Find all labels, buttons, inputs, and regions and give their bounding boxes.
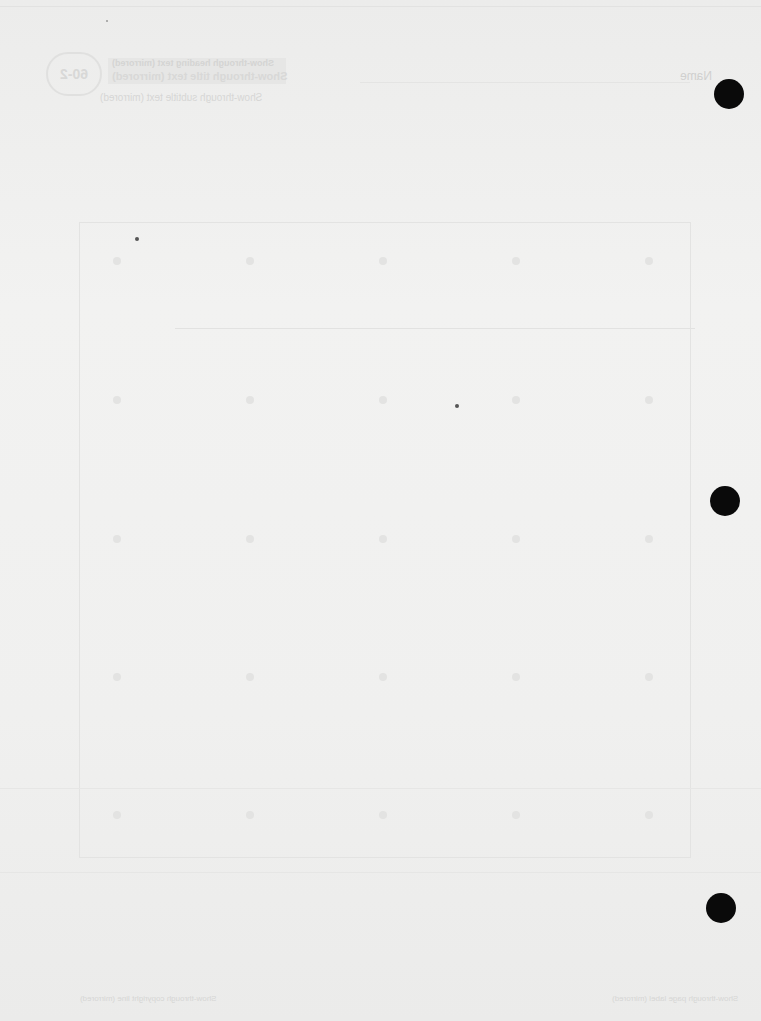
grid-dot <box>113 257 121 265</box>
title-line-1: Show-through heading text (mirrored) <box>112 58 274 68</box>
grid-dot <box>113 535 121 543</box>
binder-hole-bottom <box>706 893 736 923</box>
grid-dot <box>113 673 121 681</box>
grid-dot <box>645 535 653 543</box>
grid-dot <box>512 535 520 543</box>
binder-hole-middle <box>710 486 740 516</box>
subtitle: Show-through subtitle text (mirrored) <box>100 92 262 103</box>
footer-copyright: Show-through copyright line (mirrored) <box>80 994 217 1003</box>
grid-dot <box>512 396 520 404</box>
grid-dot <box>113 811 121 819</box>
grid-dot <box>246 396 254 404</box>
grid-dot <box>246 257 254 265</box>
grid-dot <box>645 811 653 819</box>
grid-dot <box>379 811 387 819</box>
name-label: Name <box>680 69 712 83</box>
grid-dot <box>379 396 387 404</box>
title-line-2: Show-through title text (mirrored) <box>112 70 287 82</box>
binder-hole-top <box>714 79 744 109</box>
grid-dot <box>645 396 653 404</box>
grid-dot <box>645 673 653 681</box>
grid-dot <box>512 673 520 681</box>
grid-dot <box>645 257 653 265</box>
grid-dot <box>246 535 254 543</box>
scan-speck <box>135 237 139 241</box>
grid-dot <box>246 811 254 819</box>
scan-speck <box>455 404 459 408</box>
grid-dot <box>512 811 520 819</box>
grid-dot <box>113 396 121 404</box>
scan-speck <box>106 20 108 22</box>
inner-rule <box>175 328 695 329</box>
lesson-badge: 60-2 <box>46 52 102 96</box>
grid-dot <box>512 257 520 265</box>
scan-band <box>0 872 761 873</box>
grid-dot <box>379 535 387 543</box>
scan-band <box>0 788 761 789</box>
grid-dot <box>379 673 387 681</box>
name-line <box>360 82 690 83</box>
top-edge-line <box>0 6 761 7</box>
footer-page-label: Show-through page label (mirrored) <box>612 994 738 1003</box>
grid-dot <box>379 257 387 265</box>
grid-dot <box>246 673 254 681</box>
scanned-page: 60-2 Show-through heading text (mirrored… <box>0 0 761 1021</box>
